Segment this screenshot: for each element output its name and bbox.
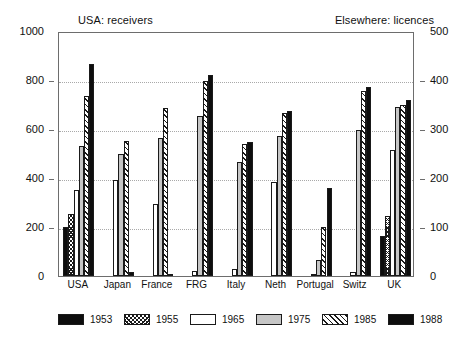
x-axis-label-neth: Neth <box>265 279 286 290</box>
right-axis-tick-label: 300 <box>430 124 470 135</box>
bar-italy-1988 <box>247 142 252 276</box>
bar-group-portugal <box>301 33 332 276</box>
right-axis-tick <box>420 179 425 180</box>
left-axis-tick <box>49 179 54 180</box>
y-axis-right: 0100200300400500 <box>420 32 464 277</box>
right-axis-tick <box>420 130 425 131</box>
legend-item-1953[interactable]: 1953 <box>58 312 112 326</box>
right-axis-tick-label: 0 <box>430 271 470 282</box>
legend-item-1975[interactable]: 1975 <box>256 312 310 326</box>
x-axis-label-usa: USA <box>67 279 88 290</box>
left-axis-tick-label: 1000 <box>4 26 44 37</box>
legend-item-1965[interactable]: 1965 <box>190 312 244 326</box>
legend-label-1988: 1988 <box>420 314 442 325</box>
bar-frg-1988 <box>208 75 213 276</box>
bar-group-frg <box>182 33 213 276</box>
caption-left: USA: receivers <box>78 14 153 26</box>
left-axis-tick <box>49 130 54 131</box>
bar-france-1988 <box>168 274 173 276</box>
caption-right: Elsewhere: licences <box>335 14 434 26</box>
y-axis-left: 02004006008001000 <box>10 32 54 277</box>
legend-label-1985: 1985 <box>354 314 376 325</box>
legend-swatch-1965 <box>190 314 216 325</box>
bar-switz-1988 <box>366 87 371 276</box>
bar-uk-1988 <box>406 100 411 276</box>
bar-usa-1988 <box>89 64 94 276</box>
bar-group-italy <box>221 33 252 276</box>
bar-japan-1985 <box>124 141 129 276</box>
bar-group-usa <box>63 33 94 276</box>
x-axis-label-portugal: Portugal <box>296 279 333 290</box>
bar-group-france <box>142 33 173 276</box>
legend-swatch-1975 <box>256 314 282 325</box>
right-axis-tick-label: 200 <box>430 173 470 184</box>
legend-item-1955[interactable]: 1955 <box>124 312 178 326</box>
x-axis-label-uk: UK <box>387 279 401 290</box>
right-axis-tick <box>420 228 425 229</box>
legend-swatch-1953 <box>58 314 84 325</box>
bar-group-japan <box>103 33 134 276</box>
left-axis-tick-label: 400 <box>4 173 44 184</box>
bar-group-neth <box>261 33 292 276</box>
x-axis-label-italy: Italy <box>227 279 245 290</box>
chart-legend: 195319551965197519851988 <box>58 312 458 332</box>
legend-label-1955: 1955 <box>156 314 178 325</box>
bar-neth-1988 <box>287 111 292 276</box>
bar-group-uk <box>380 33 411 276</box>
x-axis-label-japan: Japan <box>104 279 131 290</box>
bar-france-1985 <box>163 108 168 276</box>
legend-label-1953: 1953 <box>90 314 112 325</box>
left-axis-tick <box>49 228 54 229</box>
x-axis-label-france: France <box>141 279 172 290</box>
left-axis-tick-label: 800 <box>4 75 44 86</box>
bar-chart: USA: receivers Elsewhere: licences 02004… <box>0 0 474 352</box>
x-axis-categories: USAJapanFranceFRGItalyNethPortugalSwitzU… <box>58 279 414 295</box>
left-axis-tick-label: 0 <box>4 271 44 282</box>
legend-label-1965: 1965 <box>222 314 244 325</box>
x-axis-label-switz: Switz <box>343 279 367 290</box>
legend-swatch-1955 <box>124 314 150 325</box>
bar-group-switz <box>340 33 371 276</box>
legend-item-1988[interactable]: 1988 <box>388 312 442 326</box>
bar-japan-1988 <box>129 272 134 276</box>
legend-swatch-1985 <box>322 314 348 325</box>
right-axis-tick-label: 100 <box>430 222 470 233</box>
bar-portugal-1988 <box>327 188 332 276</box>
legend-swatch-1988 <box>388 314 414 325</box>
legend-label-1975: 1975 <box>288 314 310 325</box>
x-axis-label-frg: FRG <box>186 279 207 290</box>
left-axis-tick-label: 200 <box>4 222 44 233</box>
right-axis-tick <box>420 81 425 82</box>
plot-area <box>58 32 414 277</box>
legend-item-1985[interactable]: 1985 <box>322 312 376 326</box>
right-axis-tick-label: 400 <box>430 75 470 86</box>
right-axis-tick-label: 500 <box>430 26 470 37</box>
left-axis-tick-label: 600 <box>4 124 44 135</box>
left-axis-tick <box>49 81 54 82</box>
